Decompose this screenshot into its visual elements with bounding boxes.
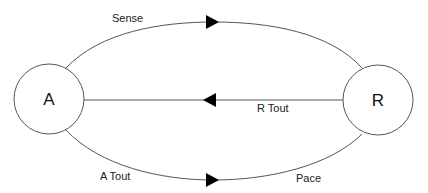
node-r: R: [343, 65, 413, 135]
node-r-label: R: [372, 91, 384, 110]
edge-label-r-tout: R Tout: [257, 102, 289, 114]
edge-sense: [66, 22, 362, 68]
node-a-label: A: [43, 90, 55, 109]
edge-label-pace: Pace: [296, 172, 321, 184]
node-a: A: [14, 64, 84, 134]
state-diagram: Sense R Tout A Tout Pace A R: [0, 0, 428, 193]
edge-label-a-tout: A Tout: [100, 170, 130, 182]
arrowhead-right-icon: [206, 15, 219, 29]
arrowhead-right-icon: [206, 173, 219, 187]
edge-label-sense: Sense: [112, 12, 143, 24]
arrowhead-left-icon: [203, 93, 216, 107]
